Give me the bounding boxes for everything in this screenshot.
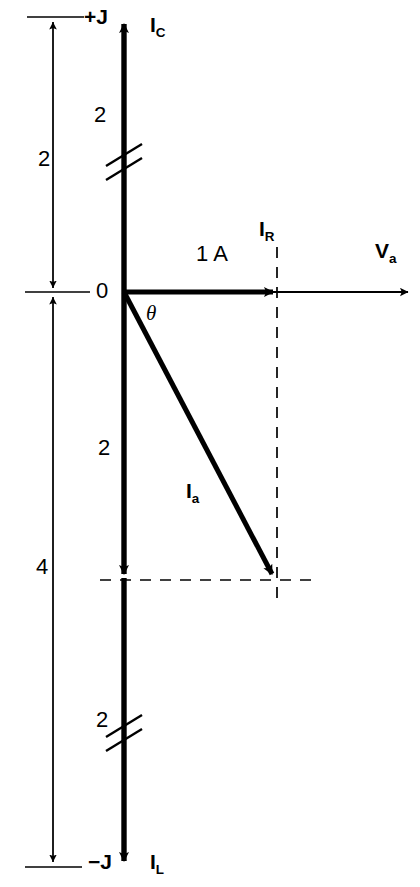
axis-label-negative-j: −J (88, 851, 112, 872)
phasor-label-ir-sub: R (265, 229, 275, 244)
scale-label-ic: 2 (94, 104, 106, 126)
phasor-label-ic-sub: C (156, 25, 166, 40)
angle-label-theta: θ (146, 303, 156, 324)
dimension-label-lower: 4 (36, 556, 48, 578)
scale-label-il-upper: 2 (98, 437, 110, 459)
scale-label-il-lower: 2 (96, 709, 108, 731)
axis-label-va-sub: a (389, 251, 396, 266)
phasor-label-ia-sub: a (192, 491, 199, 506)
phasor-diagram-canvas (0, 0, 420, 887)
dimension-label-upper: 2 (38, 148, 50, 170)
phasor-label-ir: IR (259, 218, 275, 244)
phasor-label-il-sub: L (156, 862, 164, 877)
phasor-label-il: IL (150, 851, 164, 877)
phasor-diagram: +J IC 2 2 0 1 A IR Va θ 2 Ia 4 2 −J IL (0, 0, 420, 887)
axis-label-va-base: V (375, 239, 389, 262)
scale-label-ir: 1 A (196, 243, 228, 265)
axis-label-positive-j: +J (84, 6, 108, 27)
axis-label-va: Va (375, 240, 397, 266)
origin-label: 0 (96, 280, 108, 302)
phasor-label-ia: Ia (186, 480, 199, 506)
phasor-label-ic: IC (150, 14, 166, 40)
phasor-ia (124, 292, 272, 574)
